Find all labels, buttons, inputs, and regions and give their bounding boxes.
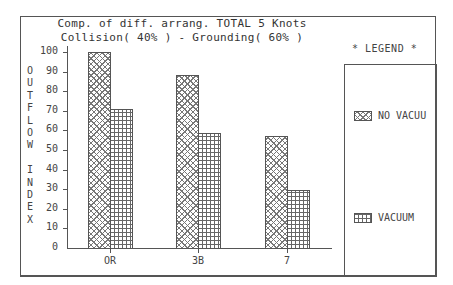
- y-tick-label: 40: [32, 163, 58, 174]
- y-tick: [63, 52, 68, 53]
- bar-or-no-vacuu: [88, 52, 111, 249]
- legend: [344, 64, 437, 277]
- y-tick-label: 70: [32, 104, 58, 115]
- bar-7-vacuum: [287, 190, 310, 249]
- y-tick: [63, 150, 68, 151]
- x-tick: [198, 248, 199, 253]
- x-tick-label: OR: [90, 255, 130, 266]
- y-tick-label: 20: [32, 202, 58, 213]
- y-tick-label: 30: [32, 182, 58, 193]
- y-tick-label: 10: [32, 221, 58, 232]
- chart-title: Comp. of diff. arrang. TOTAL 5 Knots: [20, 17, 344, 30]
- y-axis: [67, 46, 68, 249]
- y-tick-label: 90: [32, 65, 58, 76]
- y-tick: [63, 111, 68, 112]
- y-tick: [63, 91, 68, 92]
- legend-swatch-vacuum: [354, 213, 372, 223]
- legend-label-vacuum: VACUUM: [378, 212, 414, 223]
- legend-swatch-no-vacuu: [354, 111, 372, 121]
- x-tick: [287, 248, 288, 253]
- x-tick-label: 3B: [178, 255, 218, 266]
- legend-title: * LEGEND *: [352, 43, 417, 54]
- y-tick: [63, 72, 68, 73]
- x-tick-label: 7: [267, 255, 307, 266]
- legend-label-no-vacuu: NO VACUU: [378, 110, 426, 121]
- bar-or-vacuum: [110, 109, 133, 249]
- y-tick-label: 50: [32, 143, 58, 154]
- y-tick: [63, 189, 68, 190]
- chart-subtitle: Collision( 40% ) - Grounding( 60% ): [20, 31, 344, 44]
- y-tick: [63, 209, 68, 210]
- y-tick: [63, 228, 68, 229]
- bar-3b-vacuum: [198, 133, 221, 249]
- y-tick-label: 80: [32, 84, 58, 95]
- y-tick-label: 0: [32, 241, 58, 252]
- y-tick-label: 60: [32, 123, 58, 134]
- x-tick: [110, 248, 111, 253]
- y-tick: [63, 130, 68, 131]
- y-tick: [63, 170, 68, 171]
- bar-3b-no-vacuu: [176, 75, 199, 249]
- y-tick-label: 100: [32, 45, 58, 56]
- bar-7-no-vacuu: [265, 136, 288, 249]
